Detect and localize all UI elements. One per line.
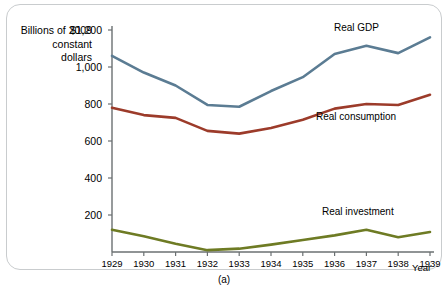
y-tick-label: 400 — [56, 172, 102, 184]
y-tick-label: 1,000 — [56, 61, 102, 73]
figure-container: Billions of 2009 constant dollars 200400… — [0, 0, 448, 297]
x-axis-title: Year — [412, 262, 431, 273]
x-tick-label: 1929 — [95, 258, 129, 269]
series-line-real-investment — [112, 230, 430, 250]
x-tick-label: 1932 — [190, 258, 224, 269]
x-tick-label: 1934 — [254, 258, 288, 269]
x-tick-label: 1931 — [159, 258, 193, 269]
figure-caption: (a) — [0, 274, 448, 285]
series-label-real-investment: Real investment — [322, 206, 394, 217]
y-tick-label: 800 — [56, 98, 102, 110]
y-tick-label: 600 — [56, 135, 102, 147]
x-tick-label: 1930 — [127, 258, 161, 269]
series-label-real-gdp: Real GDP — [334, 22, 379, 33]
chart-canvas — [0, 0, 448, 297]
y-tick-label: $1,200 — [56, 24, 102, 36]
x-tick-label: 1935 — [286, 258, 320, 269]
series-label-real-consumption: Real consumption — [316, 111, 396, 122]
x-tick-label: 1933 — [222, 258, 256, 269]
x-tick-label: 1936 — [318, 258, 352, 269]
x-tick-label: 1937 — [349, 258, 383, 269]
series-line-real-gdp — [112, 37, 430, 106]
x-tick-label: 1938 — [381, 258, 415, 269]
y-tick-label: 200 — [56, 209, 102, 221]
